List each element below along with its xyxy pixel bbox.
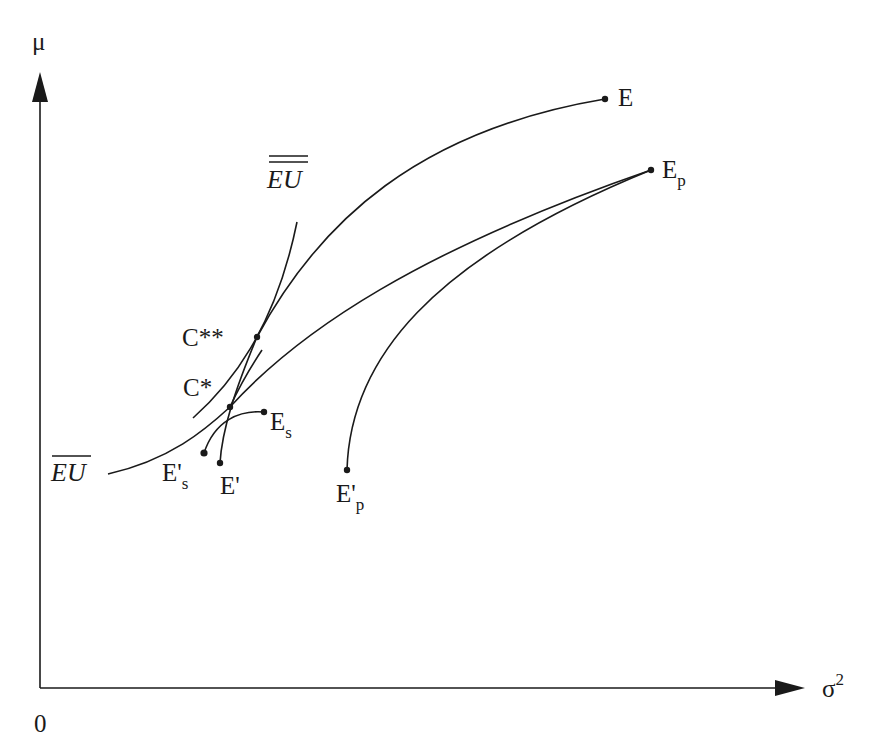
x-axis-arrow-icon [775,680,805,696]
point-e [602,96,608,102]
y-axis-arrow-icon [32,72,48,102]
point-eprime-p [344,467,350,473]
point-eprime [217,460,223,466]
label-ep: Ep [662,156,686,190]
curve-eprime-to-c-double-star [220,337,257,463]
label-es: Es [270,408,292,442]
label-eu-bar: EU [50,458,88,487]
point-es [261,409,267,415]
label-c-double-star: C** [182,324,224,351]
mean-variance-diagram: μ σ2 0 E Ep E'p Es E's E' C* C** EU EU [0,0,875,751]
point-eprime-s [200,449,207,456]
curve-eu-bar-to-ep [108,170,651,474]
curve-eprime-p-to-ep [347,170,651,470]
label-e: E [618,84,633,111]
curve-eprime-s-to-es [204,412,264,453]
curve-c-double-star-to-e [257,99,605,337]
point-ep [648,167,654,173]
label-eprime-p: E'p [336,480,364,514]
label-c-star: C* [183,374,212,401]
label-eu-double-bar: EU [266,165,304,194]
origin-label: 0 [34,710,47,737]
point-c-star [227,404,233,410]
y-axis-label: μ [32,28,45,55]
x-axis-label: σ2 [822,670,844,702]
point-c-double-star [254,334,260,340]
label-eprime-s: E's [162,459,188,493]
label-eprime: E' [220,472,240,499]
